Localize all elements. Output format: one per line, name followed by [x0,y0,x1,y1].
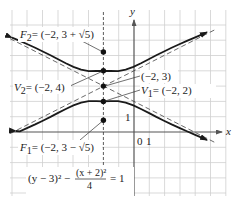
center-leader [105,76,140,86]
x-tick-label: 1 [146,135,152,147]
v2-leader [70,72,102,87]
equation: (y − 3)² − (x + 2)² 4 = 1 [26,167,134,196]
origin-label: 0 [137,135,143,147]
vertex-v2-dot [101,68,106,73]
v1-label: V1= (−2, 2) [140,84,216,99]
x-axis-label: x [225,125,231,137]
equation-right: = 1 [110,172,124,184]
f1-leader [80,122,102,141]
y-axis-label: y [129,5,135,17]
f2-label: F2= (−2, 3 + √5) [18,27,102,43]
equation-left: (y − 3)² − [28,172,70,185]
center-label: (−2, 3) [140,70,178,83]
svg-text:(−2, 3): (−2, 3) [141,70,171,83]
lower-branch [16,101,207,140]
f1-label: F1= (−2, 3 − √5) [18,140,102,156]
focus-f2-dot [101,49,106,54]
equation-numerator: (x + 2)² [76,167,106,179]
vertex-v1-dot [101,99,106,104]
hyperbola-diagram: F2= (−2, 3 + √5) V2= (−2, 4) (−2, 3) V1=… [0,0,234,201]
v2-label: V2= (−2, 4) [13,80,71,96]
equation-denominator: 4 [87,180,92,191]
y-tick-label: 1 [125,111,131,123]
v1-leader [105,90,140,101]
